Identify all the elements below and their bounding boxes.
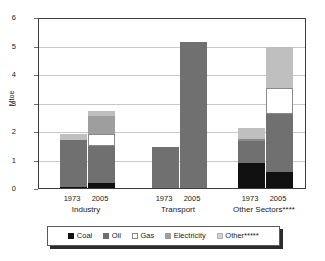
bar-segment-coal[interactable]: [60, 187, 87, 188]
legend-swatch-gas-icon: [132, 233, 138, 239]
bar-segment-gas[interactable]: [266, 88, 293, 114]
legend-item-oil[interactable]: Oil: [103, 232, 121, 240]
legend-label: Electricity: [174, 232, 206, 240]
plot-area: [38, 18, 306, 189]
bar-segment-coal[interactable]: [266, 172, 293, 188]
bar-segment-gas[interactable]: [88, 134, 115, 146]
legend-swatch-other-icon: [217, 233, 223, 239]
legend-label: Other*****: [225, 232, 258, 240]
bar-segment-oil[interactable]: [152, 147, 179, 188]
legend-item-electricity[interactable]: Electricity: [165, 232, 206, 240]
legend-label: Coal: [77, 232, 92, 240]
chart-legend: CoalOilGasElectricityOther*****: [47, 226, 280, 246]
bar-other-sectors-2005[interactable]: [266, 17, 293, 188]
y-tick-mark: [34, 189, 38, 190]
bar-segment-electricity[interactable]: [88, 116, 115, 134]
chart-title: [0, 0, 325, 2]
y-tick-label: 6: [0, 14, 16, 22]
legend-item-coal[interactable]: Coal: [68, 232, 92, 240]
y-tick-label: 5: [0, 43, 16, 51]
legend-item-other[interactable]: Other*****: [217, 232, 259, 240]
plot-inner: [39, 19, 305, 188]
x-tick-label-year: 2005: [83, 194, 117, 203]
bar-segment-gas[interactable]: [238, 139, 265, 141]
y-tick-label: 1: [0, 157, 16, 165]
bar-transport-1973[interactable]: [152, 17, 179, 188]
bar-transport-2005[interactable]: [180, 17, 207, 188]
bar-other-sectors-1973[interactable]: [238, 17, 265, 188]
bar-segment-other[interactable]: [88, 111, 115, 116]
bar-segment-other[interactable]: [266, 47, 293, 88]
x-tick-label-year: 2005: [175, 194, 209, 203]
legend-swatch-electricity-icon: [165, 233, 171, 239]
legend-items: CoalOilGasElectricityOther*****: [48, 227, 279, 245]
bar-segment-other[interactable]: [60, 134, 87, 140]
y-tick-label: 3: [0, 100, 16, 108]
bar-segment-other[interactable]: [238, 128, 265, 139]
bar-industry-2005[interactable]: [88, 17, 115, 188]
y-tick-label: 4: [0, 71, 16, 79]
bar-segment-coal[interactable]: [88, 183, 115, 188]
legend-label: Gas: [140, 232, 154, 240]
y-tick-label: 0: [0, 185, 16, 193]
bar-segment-oil[interactable]: [60, 140, 87, 186]
legend-swatch-coal-icon: [68, 233, 74, 239]
bar-segment-oil[interactable]: [266, 114, 293, 172]
bar-industry-1973[interactable]: [60, 17, 87, 188]
legend-label: Oil: [112, 232, 121, 240]
chart-container: Mtoe 0123456 197320051973200519732005Ind…: [0, 0, 325, 261]
legend-swatch-oil-icon: [103, 233, 109, 239]
bar-segment-oil[interactable]: [238, 140, 265, 162]
bar-segment-coal[interactable]: [238, 163, 265, 188]
x-axis-group-label: Other Sectors****: [209, 205, 319, 214]
x-tick-label-year: 2005: [261, 194, 295, 203]
legend-item-gas[interactable]: Gas: [132, 232, 154, 240]
bar-segment-oil[interactable]: [180, 42, 207, 188]
bar-segment-oil[interactable]: [88, 146, 115, 184]
y-tick-label: 2: [0, 128, 16, 136]
